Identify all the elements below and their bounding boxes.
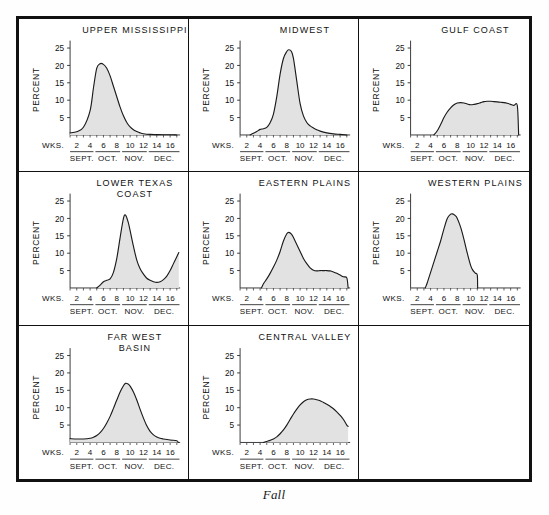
svg-text:2: 2 xyxy=(245,448,250,457)
chart-cell-western-plains: WESTERN PLAINS510152025PERCENTWKS.246810… xyxy=(359,172,529,325)
area-chart-eastern-plains: EASTERN PLAINS510152025PERCENTWKS.246810… xyxy=(189,172,358,324)
chart-cell-far-west-basin: FAR WESTBASIN510152025PERCENTWKS.2468101… xyxy=(19,326,189,479)
svg-text:6: 6 xyxy=(101,294,106,303)
svg-text:NOV.: NOV. xyxy=(124,154,144,163)
svg-text:OCT.: OCT. xyxy=(268,154,288,163)
svg-text:6: 6 xyxy=(271,294,276,303)
svg-text:14: 14 xyxy=(152,294,161,303)
svg-text:2: 2 xyxy=(75,141,80,150)
svg-text:15: 15 xyxy=(225,232,235,241)
svg-text:SEPT.: SEPT. xyxy=(410,155,434,164)
svg-text:SEPT.: SEPT. xyxy=(240,462,264,471)
svg-text:NOV.: NOV. xyxy=(465,308,485,317)
svg-text:12: 12 xyxy=(139,448,148,457)
svg-text:NOV.: NOV. xyxy=(294,308,314,317)
svg-text:SEPT.: SEPT. xyxy=(240,154,264,163)
svg-text:NOV.: NOV. xyxy=(124,308,144,317)
fall-migration-figure: UPPER MISSISSIPPI510152025PERCENTWKS.246… xyxy=(0,0,549,515)
figure-caption: Fall xyxy=(16,487,532,503)
svg-text:OCT.: OCT. xyxy=(439,155,459,164)
svg-text:6: 6 xyxy=(271,141,276,150)
svg-text:12: 12 xyxy=(309,141,318,150)
svg-text:EASTERN PLAINS: EASTERN PLAINS xyxy=(259,178,351,188)
svg-text:PERCENT: PERCENT xyxy=(201,221,211,265)
svg-text:WKS.: WKS. xyxy=(42,448,64,457)
area-chart-central-valley: CENTRAL VALLEY510152025PERCENTWKS.246810… xyxy=(189,326,358,479)
svg-text:8: 8 xyxy=(285,448,290,457)
svg-text:SEPT.: SEPT. xyxy=(70,462,94,471)
svg-text:16: 16 xyxy=(506,141,515,150)
svg-text:CENTRAL VALLEY: CENTRAL VALLEY xyxy=(259,332,352,342)
svg-text:15: 15 xyxy=(55,386,65,395)
svg-text:SEPT.: SEPT. xyxy=(240,308,264,317)
svg-text:12: 12 xyxy=(479,294,488,303)
svg-text:OCT.: OCT. xyxy=(439,308,459,317)
svg-text:10: 10 xyxy=(126,294,135,303)
svg-text:25: 25 xyxy=(396,44,406,53)
area-chart-western-plains: WESTERN PLAINS510152025PERCENTWKS.246810… xyxy=(359,172,529,324)
svg-text:5: 5 xyxy=(60,421,65,430)
svg-text:4: 4 xyxy=(428,294,433,303)
svg-text:12: 12 xyxy=(309,294,318,303)
svg-text:14: 14 xyxy=(493,294,502,303)
svg-text:WESTERN PLAINS: WESTERN PLAINS xyxy=(428,178,523,188)
svg-text:25: 25 xyxy=(396,198,406,207)
svg-text:2: 2 xyxy=(415,294,420,303)
svg-text:10: 10 xyxy=(466,141,475,150)
svg-text:14: 14 xyxy=(493,141,502,150)
svg-text:15: 15 xyxy=(396,79,406,88)
svg-text:5: 5 xyxy=(230,267,235,276)
flying-geese-illustration xyxy=(353,334,543,509)
svg-text:OCT.: OCT. xyxy=(98,154,118,163)
svg-text:10: 10 xyxy=(296,294,305,303)
svg-text:DEC.: DEC. xyxy=(324,462,344,471)
svg-text:5: 5 xyxy=(60,267,65,276)
svg-text:5: 5 xyxy=(400,267,405,276)
svg-text:14: 14 xyxy=(322,141,331,150)
svg-text:DEC.: DEC. xyxy=(494,308,514,317)
svg-text:NOV.: NOV. xyxy=(294,154,314,163)
svg-text:20: 20 xyxy=(55,215,65,224)
chart-cell-midwest: MIDWEST510152025PERCENTWKS.246810121416S… xyxy=(189,19,359,172)
svg-text:10: 10 xyxy=(225,403,235,412)
svg-text:SEPT.: SEPT. xyxy=(70,154,94,163)
chart-cell-lower-texas-coast: LOWER TEXASCOAST510152025PERCENTWKS.2468… xyxy=(19,172,189,325)
chart-cell-upper-mississippi: UPPER MISSISSIPPI510152025PERCENTWKS.246… xyxy=(19,19,189,172)
svg-text:PERCENT: PERCENT xyxy=(371,68,381,112)
svg-text:20: 20 xyxy=(55,369,65,378)
svg-text:15: 15 xyxy=(225,386,235,395)
svg-text:PERCENT: PERCENT xyxy=(31,375,41,419)
svg-text:12: 12 xyxy=(309,448,318,457)
svg-text:8: 8 xyxy=(455,294,460,303)
svg-text:MIDWEST: MIDWEST xyxy=(280,25,330,35)
svg-text:25: 25 xyxy=(55,198,65,207)
svg-text:16: 16 xyxy=(166,448,175,457)
svg-text:4: 4 xyxy=(88,448,93,457)
svg-text:10: 10 xyxy=(466,294,475,303)
svg-text:14: 14 xyxy=(152,141,161,150)
svg-text:16: 16 xyxy=(506,294,515,303)
svg-text:5: 5 xyxy=(230,114,235,123)
svg-text:10: 10 xyxy=(225,250,235,259)
svg-text:2: 2 xyxy=(245,141,250,150)
svg-text:PERCENT: PERCENT xyxy=(201,375,211,419)
svg-text:16: 16 xyxy=(336,294,345,303)
svg-text:5: 5 xyxy=(400,114,405,123)
svg-text:4: 4 xyxy=(428,141,433,150)
svg-text:25: 25 xyxy=(55,44,65,53)
svg-text:10: 10 xyxy=(55,250,65,259)
svg-text:4: 4 xyxy=(88,141,93,150)
svg-text:FAR WEST: FAR WEST xyxy=(108,332,163,342)
svg-text:10: 10 xyxy=(55,403,65,412)
chart-cell-eastern-plains: EASTERN PLAINS510152025PERCENTWKS.246810… xyxy=(189,172,359,325)
svg-text:14: 14 xyxy=(152,448,161,457)
svg-text:OCT.: OCT. xyxy=(98,308,118,317)
svg-text:PERCENT: PERCENT xyxy=(31,68,41,112)
svg-text:10: 10 xyxy=(225,96,235,105)
svg-text:14: 14 xyxy=(322,294,331,303)
svg-text:NOV.: NOV. xyxy=(465,155,485,164)
svg-text:10: 10 xyxy=(396,250,406,259)
svg-text:DEC.: DEC. xyxy=(324,154,344,163)
svg-text:20: 20 xyxy=(396,62,406,71)
svg-text:16: 16 xyxy=(336,141,345,150)
